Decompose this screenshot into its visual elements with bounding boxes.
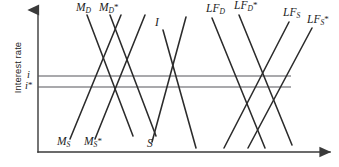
rate-label-i-star: i* xyxy=(25,81,32,92)
economics-diagram: Interest rate i i* MD MD* I LFD LFD* LFS… xyxy=(0,0,339,167)
rate-lines-group xyxy=(38,76,291,87)
money-market-curves xyxy=(70,15,156,139)
y-axis-label: Interest rate xyxy=(12,26,23,110)
curve-lf-supply-star xyxy=(248,28,312,148)
curve-label-lf-demand-star: LFD* xyxy=(234,0,257,12)
loanable-funds-curves xyxy=(212,15,312,148)
curve-label-lf-supply-star: LFS* xyxy=(307,14,329,26)
rate-label-i: i xyxy=(27,70,30,81)
curve-label-money-supply-star: MS* xyxy=(84,136,102,148)
curve-money-supply xyxy=(70,15,121,139)
diagram-canvas xyxy=(0,0,339,167)
curve-label-investment: I xyxy=(155,17,159,29)
curve-label-money-supply: MS xyxy=(57,136,70,148)
investment-saving-curves xyxy=(152,17,196,148)
curve-label-lf-supply: LFS xyxy=(283,7,300,19)
curve-label-saving: S xyxy=(147,138,153,150)
curve-label-money-demand: MD xyxy=(76,2,91,14)
curve-label-lf-demand: LFD xyxy=(206,3,225,15)
curve-investment xyxy=(163,30,196,148)
curve-label-money-demand-star: MD* xyxy=(99,2,119,14)
curve-money-supply-star xyxy=(95,15,145,139)
curve-saving xyxy=(152,17,186,142)
